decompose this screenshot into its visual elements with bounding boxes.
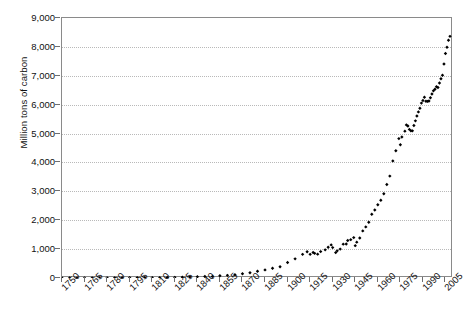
data-point (385, 183, 388, 186)
data-point (399, 143, 402, 146)
data-point (364, 225, 367, 228)
data-point (441, 74, 444, 77)
data-point (370, 213, 373, 216)
y-tick-mark (55, 17, 60, 18)
data-point (382, 192, 385, 195)
data-point (339, 247, 342, 250)
data-point (326, 246, 329, 249)
data-point (415, 114, 418, 117)
data-point (293, 257, 296, 260)
data-point (412, 124, 415, 127)
data-point (417, 110, 420, 113)
data-point (361, 229, 364, 232)
data-point (373, 208, 376, 211)
y-tick-mark (55, 104, 60, 105)
data-point (444, 52, 447, 55)
data-point (319, 250, 322, 253)
data-point (352, 236, 355, 239)
data-point (345, 242, 348, 245)
y-tick-mark (55, 277, 60, 278)
y-tick-mark (55, 219, 60, 220)
data-point (379, 199, 382, 202)
data-point (263, 268, 266, 271)
data-point (376, 203, 379, 206)
data-point (349, 238, 352, 241)
data-point (442, 62, 445, 65)
data-point (355, 240, 358, 243)
data-point (414, 119, 417, 122)
data-point (438, 81, 441, 84)
data-point (423, 96, 426, 99)
data-point (329, 243, 332, 246)
data-point (346, 239, 349, 242)
data-point (331, 246, 334, 249)
y-tick-mark (55, 190, 60, 191)
data-point (316, 252, 319, 255)
y-tick-mark (55, 133, 60, 134)
x-axis-tick-labels: 1750176517801795181018251840185518701885… (61, 285, 452, 315)
data-point (430, 92, 433, 95)
data-point (323, 248, 326, 251)
data-point (403, 129, 406, 132)
y-tick-mark (55, 46, 60, 47)
y-tick-mark (55, 248, 60, 249)
data-point (358, 236, 361, 239)
data-point (394, 149, 397, 152)
data-point (278, 265, 281, 268)
data-point (342, 242, 345, 245)
data-point (286, 261, 289, 264)
data-point (305, 250, 308, 253)
data-point (354, 244, 357, 247)
data-point (418, 107, 421, 110)
y-tick-mark (55, 75, 60, 76)
data-point (439, 77, 442, 80)
plot-area (61, 17, 452, 277)
data-point (388, 174, 391, 177)
chart-figure: Million tons of carbon 9,0008,0007,0006,… (0, 0, 468, 322)
data-point (447, 39, 450, 42)
data-point (271, 267, 274, 270)
data-point (445, 46, 448, 49)
data-point (367, 221, 370, 224)
data-point (429, 96, 432, 99)
y-axis-tick-marks (0, 17, 61, 277)
data-point (400, 135, 403, 138)
data-point (241, 272, 244, 275)
data-point (391, 159, 394, 162)
data-point (308, 253, 311, 256)
data-point (301, 253, 304, 256)
data-point (397, 137, 400, 140)
y-tick-mark (55, 161, 60, 162)
data-point (448, 35, 451, 38)
data-series-co2-emissions (62, 18, 453, 278)
